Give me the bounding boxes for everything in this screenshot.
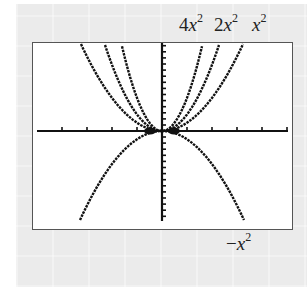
parabola-plot bbox=[0, 0, 307, 287]
label-2x2: 2x2 bbox=[214, 13, 238, 36]
label-x2: x2 bbox=[252, 13, 266, 36]
label-4x2: 4x2 bbox=[179, 13, 203, 36]
label-neg-x2: −x2 bbox=[226, 232, 251, 255]
